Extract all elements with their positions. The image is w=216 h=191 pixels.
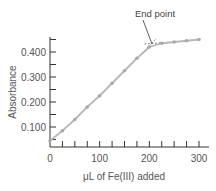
data-point — [98, 94, 102, 98]
data-point — [48, 139, 52, 143]
data-series — [48, 38, 201, 143]
end-point-pointer — [143, 20, 152, 44]
end-point-annotation: End point — [135, 8, 176, 44]
data-point — [110, 81, 114, 85]
x-axis-label: μL of Fe(III) added — [83, 171, 165, 182]
data-point — [160, 41, 164, 45]
x-tick-label: 100 — [91, 153, 108, 164]
end-point-label: End point — [135, 8, 176, 19]
data-point — [135, 56, 139, 60]
data-point — [123, 69, 127, 73]
data-point — [85, 105, 89, 109]
x-axis: 0100200300 — [47, 141, 209, 164]
x-tick-label: 200 — [141, 153, 158, 164]
data-point — [61, 129, 65, 133]
series-line — [50, 40, 199, 141]
y-tick-label: 0.300 — [21, 72, 46, 83]
x-tick-label: 0 — [47, 153, 53, 164]
titration-chart: 0.1000.2000.3000.400 0100200300 End poin… — [0, 0, 216, 191]
y-tick-label: 0.100 — [21, 122, 46, 133]
data-point — [73, 118, 77, 122]
data-point — [172, 40, 176, 44]
x-tick-label: 300 — [191, 153, 208, 164]
y-tick-label: 0.400 — [21, 47, 46, 58]
y-axis-label: Absorbance — [7, 65, 18, 119]
y-axis: 0.1000.2000.3000.400 — [21, 37, 56, 147]
data-point — [148, 45, 152, 49]
y-tick-label: 0.200 — [21, 97, 46, 108]
data-point — [197, 38, 201, 42]
data-point — [185, 39, 189, 43]
